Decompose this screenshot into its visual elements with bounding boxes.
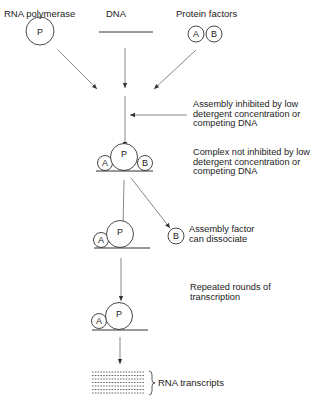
svg-text:P: P xyxy=(117,227,123,237)
rna-polymerase-label: RNA polymerase xyxy=(4,9,75,19)
polymerase-free-circle: P xyxy=(26,17,54,45)
factor-dissociate-note: Assembly factor can dissociate xyxy=(189,225,261,244)
factor-a-free-circle: A xyxy=(188,26,204,42)
complex-apb: A P B xyxy=(96,144,153,172)
factor-b-free-circle: B xyxy=(206,26,222,42)
assembly-inhibited-note: Assembly inhibited by low detergent conc… xyxy=(193,100,311,129)
factor-b-dissociated-circle: B xyxy=(168,228,184,244)
diagram-canvas: P A B A P B B A P xyxy=(0,0,312,404)
repeated-rounds-note: Repeated rounds of transcription xyxy=(190,283,282,302)
protein-factors-label: Protein factors xyxy=(176,9,237,19)
svg-text:A: A xyxy=(193,29,199,39)
complex-ap-1: A P xyxy=(94,221,151,249)
arrow-polymerase-to-assembly xyxy=(58,50,97,89)
svg-text:A: A xyxy=(98,235,104,245)
svg-text:B: B xyxy=(211,29,217,39)
rna-transcripts-label: RNA transcripts xyxy=(158,378,224,388)
complex-not-inhibited-note: Complex not inhibited by low detergent c… xyxy=(193,148,311,177)
svg-text:A: A xyxy=(96,316,102,326)
transcripts-brace xyxy=(149,371,155,395)
svg-text:B: B xyxy=(142,158,148,168)
svg-text:B: B xyxy=(173,231,179,241)
svg-text:P: P xyxy=(121,149,127,159)
arrow-factors-to-assembly xyxy=(154,50,196,89)
svg-text:P: P xyxy=(116,309,122,319)
svg-text:A: A xyxy=(102,158,108,168)
arrow-factor-b-dissociate xyxy=(131,178,170,228)
dna-label: DNA xyxy=(106,9,126,19)
polymerase-symbol: P xyxy=(37,27,43,37)
rna-transcripts-lines xyxy=(92,372,145,393)
complex-ap-2: A P xyxy=(92,303,149,331)
arrow-to-complex-ap xyxy=(123,180,124,227)
